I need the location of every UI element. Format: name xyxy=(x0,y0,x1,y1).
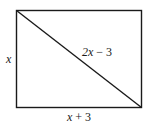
rectangle-diagram: x 2x − 3 x + 3 xyxy=(0,0,152,126)
height-label: x xyxy=(5,52,12,66)
diagonal-label-rest: − 3 xyxy=(93,45,112,59)
diagonal-label: 2x − 3 xyxy=(82,45,112,59)
diagonal-line xyxy=(17,11,142,108)
width-label-rest: + 3 xyxy=(72,110,91,124)
width-label: x + 3 xyxy=(66,110,91,124)
diagonal-label-var: 2x xyxy=(82,45,94,59)
